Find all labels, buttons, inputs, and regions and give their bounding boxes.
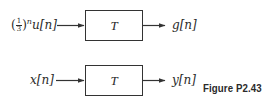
system-label-1: T [86,18,142,34]
unit-step: u[n] [32,18,57,32]
output-label-1: g[n] [172,18,197,32]
output-signal-1: g[n] [172,19,197,31]
figure-caption: Figure P2.43 [203,82,262,94]
system-block-2: T [85,65,143,96]
fraction-one-third: 13 [16,18,21,33]
output-label-2: y[n] [172,73,196,87]
output-signal-2: y[n] [172,74,196,86]
input-signal-1: (13)nu[n] [11,18,57,33]
system-label-2: T [86,73,142,89]
input-signal-2: x[n] [30,74,54,86]
system-block-1: T [85,10,143,41]
paren-open: ( [11,18,16,32]
input-label-2: x[n] [30,73,54,87]
fraction-denominator: 3 [16,26,21,33]
